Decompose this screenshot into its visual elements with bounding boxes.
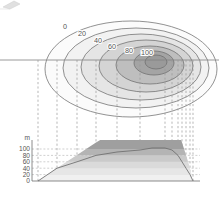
contour-label-100: 100	[141, 48, 153, 57]
contour-label-0: 0	[63, 22, 67, 31]
band-60-80	[30, 155, 202, 161]
cross-section-profile: m 100 80 60 40 20 0	[19, 134, 202, 184]
band-0-20	[30, 175, 202, 182]
contour-label-80: 80	[125, 46, 133, 55]
profile-y-axis-labels: m 100 80 60 40 20 0	[19, 134, 31, 184]
contour-fills	[45, 21, 217, 117]
band-summit	[30, 140, 202, 149]
contour-label-40: 40	[94, 36, 102, 45]
page-corner-fold-icon	[0, 1, 20, 9]
profile-unit-label: m	[25, 134, 31, 141]
profile-elevation-bands	[30, 140, 202, 181]
band-40-60	[30, 162, 202, 168]
diagram-canvas: 0 20 40 60 80 100	[0, 0, 219, 199]
contour-label-60: 60	[108, 42, 116, 51]
contour-label-20: 20	[78, 29, 86, 38]
figure-root: 0 20 40 60 80 100	[0, 0, 219, 199]
profile-tick-0: 0	[26, 177, 30, 184]
